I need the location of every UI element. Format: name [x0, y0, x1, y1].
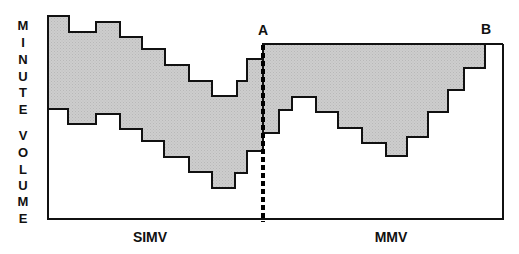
svg-text:M: M	[18, 194, 29, 209]
svg-text:L: L	[19, 162, 27, 177]
y-axis-label-volume: V O L U M E	[18, 128, 29, 226]
svg-text:T: T	[19, 85, 27, 100]
svg-text:N: N	[18, 52, 27, 67]
x-label-simv: SIMV	[133, 229, 168, 245]
minute-volume-diagram: A B M I N U T E V O L U M E SIMV MMV	[0, 0, 519, 254]
svg-text:U: U	[18, 69, 27, 84]
y-axis-label-minute: M I N U T E	[18, 18, 29, 117]
svg-text:E: E	[19, 102, 28, 117]
marker-b: B	[481, 21, 491, 37]
svg-text:M: M	[18, 18, 29, 33]
x-label-mmv: MMV	[375, 229, 408, 245]
marker-a: A	[258, 22, 268, 38]
svg-text:I: I	[21, 35, 25, 50]
svg-text:E: E	[19, 211, 28, 226]
svg-text:O: O	[18, 145, 28, 160]
simv-minute-volume-band	[48, 16, 263, 188]
svg-text:U: U	[18, 178, 27, 193]
mmv-minute-volume-band	[263, 44, 485, 156]
svg-text:V: V	[19, 128, 28, 143]
